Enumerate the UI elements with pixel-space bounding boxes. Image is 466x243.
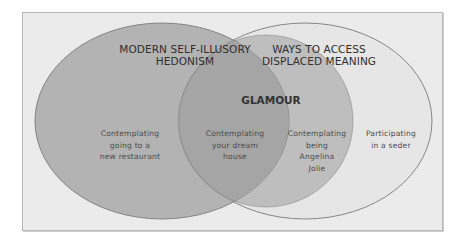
set-label-glamour: GLAMOUR bbox=[236, 94, 306, 106]
region-line: Contemplating bbox=[90, 128, 170, 140]
set-label-line: DISPLACED MEANING bbox=[255, 55, 383, 67]
region-label-dream-house: Contemplating your dream house bbox=[195, 128, 275, 163]
region-line: Jolie bbox=[282, 163, 352, 175]
set-label-line: GLAMOUR bbox=[236, 94, 306, 106]
region-label-right-only: Participating in a seder bbox=[358, 128, 424, 151]
region-line: new restaurant bbox=[90, 151, 170, 163]
region-line: being bbox=[282, 140, 352, 152]
region-line: Angelina bbox=[282, 151, 352, 163]
venn-diagram bbox=[0, 0, 466, 243]
region-line: in a seder bbox=[358, 140, 424, 152]
region-line: Contemplating bbox=[195, 128, 275, 140]
set-label-line: HEDONISM bbox=[110, 55, 260, 67]
region-line: Contemplating bbox=[282, 128, 352, 140]
set-label-hedonism: MODERN SELF-ILLUSORY HEDONISM bbox=[110, 43, 260, 67]
region-line: house bbox=[195, 151, 275, 163]
set-label-displaced-meaning: WAYS TO ACCESS DISPLACED MEANING bbox=[255, 43, 383, 67]
set-label-line: MODERN SELF-ILLUSORY bbox=[110, 43, 260, 55]
region-label-glamour-only: Contemplating being Angelina Jolie bbox=[282, 128, 352, 174]
region-line: Participating bbox=[358, 128, 424, 140]
region-line: your dream bbox=[195, 140, 275, 152]
region-label-left-only: Contemplating going to a new restaurant bbox=[90, 128, 170, 163]
region-line: going to a bbox=[90, 140, 170, 152]
set-label-line: WAYS TO ACCESS bbox=[255, 43, 383, 55]
